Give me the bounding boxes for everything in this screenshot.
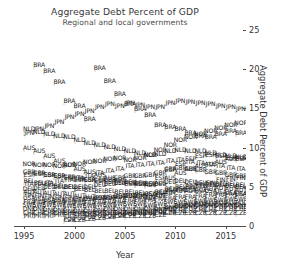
x-axis-line	[14, 226, 246, 227]
data-point-label: ITA	[206, 162, 215, 168]
data-point-label: ITA	[146, 161, 155, 167]
data-point-label: JPN	[186, 99, 196, 105]
data-point-label: NOR	[234, 120, 246, 126]
y-tick	[243, 148, 246, 149]
data-point-label: CZE	[235, 210, 246, 216]
data-point-label: ESP	[235, 156, 246, 162]
data-point-label: JPN	[44, 123, 54, 129]
data-point-label: JPN	[85, 108, 95, 114]
data-point-label: ITA	[196, 160, 205, 166]
data-point-label: ITA	[126, 163, 135, 169]
y-tick	[243, 69, 246, 70]
data-point-label: JPN	[75, 111, 85, 117]
x-tick-label: 2005	[115, 231, 136, 241]
data-point-label: JPN	[145, 104, 155, 110]
chart-container: Aggregate Debt Percent of GDP Regional a…	[0, 0, 305, 272]
data-point-label: JPN	[105, 101, 115, 107]
data-point-label: JPN	[166, 100, 176, 106]
data-point-label: BRA	[53, 79, 65, 85]
y-tick-label: 25	[249, 25, 259, 35]
data-point-label: POL	[235, 200, 246, 206]
data-point-label: BRA	[104, 78, 116, 84]
data-point-label: BRA	[114, 91, 126, 97]
y-tick	[243, 108, 246, 109]
data-point-label: JPN	[115, 103, 125, 109]
y-tick-label: 0	[249, 221, 254, 231]
data-point-label: ITA	[156, 160, 165, 166]
data-point-label: JPN	[55, 119, 65, 125]
data-point-label: ITA	[237, 166, 246, 172]
data-point-label: JPN	[65, 114, 75, 120]
data-point-label: ITA	[105, 168, 114, 174]
data-point-label: JPN	[155, 104, 165, 110]
data-point-label: JPN	[206, 101, 216, 107]
x-tick-label: 1995	[14, 231, 35, 241]
data-point-label: BRA	[94, 65, 106, 71]
data-point-label: ITA	[136, 162, 145, 168]
data-point-label: ESP	[155, 175, 166, 181]
x-tick	[24, 226, 25, 229]
x-axis-title: Year	[0, 250, 250, 260]
data-point-label: ITA	[166, 158, 175, 164]
data-point-label: BRA	[144, 111, 156, 117]
chart-title: Aggregate Debt Percent of GDP	[0, 6, 250, 17]
plot-area: BRABRABRABRABRABRABRABRABRABRABRABRABRAB…	[14, 30, 246, 226]
data-point-label: JPN	[226, 104, 236, 110]
data-point-label: JPN	[216, 103, 226, 109]
x-tick	[125, 226, 126, 229]
data-point-label: JPN	[176, 98, 186, 104]
chart-subtitle: Regional and local governments	[0, 18, 250, 27]
data-point-label: JPN	[135, 102, 145, 108]
y-tick	[243, 226, 246, 227]
data-point-label: BRA	[235, 130, 246, 136]
x-tick	[175, 226, 176, 229]
x-tick-label: 2000	[64, 231, 85, 241]
x-tick	[226, 226, 227, 229]
data-point-label: JPN	[196, 100, 206, 106]
x-tick-label: 2015	[215, 231, 236, 241]
data-point-label: ITA	[115, 166, 124, 172]
y-tick	[243, 187, 246, 188]
data-point-label: BRA	[84, 116, 96, 122]
y-tick	[243, 30, 246, 31]
data-point-label: ESP	[145, 180, 156, 186]
y-tick-label: 5	[249, 182, 254, 192]
data-point-label: BRA	[74, 103, 86, 109]
x-tick	[75, 226, 76, 229]
data-point-label: ITA	[95, 170, 104, 176]
data-point-label: ITA	[226, 165, 235, 171]
data-point-label: ITA	[216, 163, 225, 169]
x-tick-label: 2010	[165, 231, 186, 241]
data-point-label: JPN	[125, 100, 135, 106]
data-point-label: JPN	[95, 104, 105, 110]
y-axis-title: Aggregate Debt Percent of GDP	[256, 36, 268, 226]
data-point-label: BRA	[43, 68, 55, 74]
data-point-label: ESP	[165, 167, 176, 173]
